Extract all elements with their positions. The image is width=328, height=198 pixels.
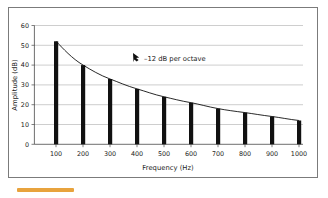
xtick-label-300: 300 <box>104 150 116 158</box>
y-axis-title: Amplitude (dB) <box>11 59 19 111</box>
ytick-label-10: 10 <box>21 121 29 129</box>
xtick-label-200: 200 <box>77 150 89 158</box>
gridlines <box>34 26 303 125</box>
x-axis: 100 200 300 400 500 600 700 800 900 1000… <box>34 144 307 172</box>
bar-400 <box>135 89 139 144</box>
arrow-down-left-icon <box>133 53 139 62</box>
xtick-label-500: 500 <box>158 150 170 158</box>
ytick-label-50: 50 <box>21 42 29 50</box>
amplitude-vs-frequency-chart: 60 50 40 30 20 10 0 Amplitude (dB) 100 2… <box>0 0 328 198</box>
ytick-label-60: 60 <box>21 22 29 30</box>
figure-container: 60 50 40 30 20 10 0 Amplitude (dB) 100 2… <box>0 0 328 198</box>
bar-600 <box>189 103 193 145</box>
bar-100 <box>54 41 58 144</box>
accent-bar <box>17 188 74 192</box>
envelope-curve <box>56 41 299 120</box>
bar-500 <box>162 97 166 145</box>
bar-900 <box>270 117 274 145</box>
ytick-label-20: 20 <box>21 101 29 109</box>
xtick-label-100: 100 <box>50 150 62 158</box>
xtick-label-900: 900 <box>266 150 278 158</box>
ytick-label-0: 0 <box>25 141 29 149</box>
ytick-label-40: 40 <box>21 61 29 69</box>
x-axis-title: Frequency (Hz) <box>142 164 194 172</box>
xtick-label-400: 400 <box>131 150 143 158</box>
xtick-label-1000: 1000 <box>291 150 307 158</box>
bar-200 <box>81 65 85 144</box>
annotation-label: –12 dB per octave <box>144 55 206 63</box>
annotation-group: –12 dB per octave <box>133 53 206 63</box>
ytick-label-30: 30 <box>21 81 29 89</box>
bar-800 <box>243 113 247 145</box>
xtick-label-800: 800 <box>239 150 251 158</box>
bar-700 <box>216 109 220 145</box>
xtick-label-700: 700 <box>212 150 224 158</box>
y-axis: 60 50 40 30 20 10 0 Amplitude (dB) <box>11 22 34 149</box>
xtick-label-600: 600 <box>185 150 197 158</box>
bar-300 <box>108 79 112 144</box>
bar-1000 <box>297 121 301 145</box>
